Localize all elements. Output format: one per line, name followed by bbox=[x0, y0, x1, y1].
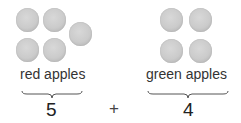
green-apples-count: 4 bbox=[183, 99, 194, 121]
brace-icon bbox=[147, 90, 229, 99]
apple-icon bbox=[160, 39, 183, 63]
apple-icon bbox=[43, 8, 66, 32]
brace-icon bbox=[21, 90, 83, 99]
plus-operator: + bbox=[109, 99, 119, 119]
apple-icon bbox=[43, 38, 66, 62]
apple-icon bbox=[160, 8, 183, 32]
red-apples-label: red apples bbox=[20, 66, 85, 82]
green-apples-label: green apples bbox=[146, 66, 227, 82]
apple-icon bbox=[16, 8, 39, 32]
apple-icon bbox=[189, 8, 212, 32]
apple-icon bbox=[69, 22, 92, 46]
apple-icon bbox=[189, 39, 212, 63]
red-apples-count: 5 bbox=[46, 99, 57, 121]
apple-icon bbox=[16, 38, 39, 62]
